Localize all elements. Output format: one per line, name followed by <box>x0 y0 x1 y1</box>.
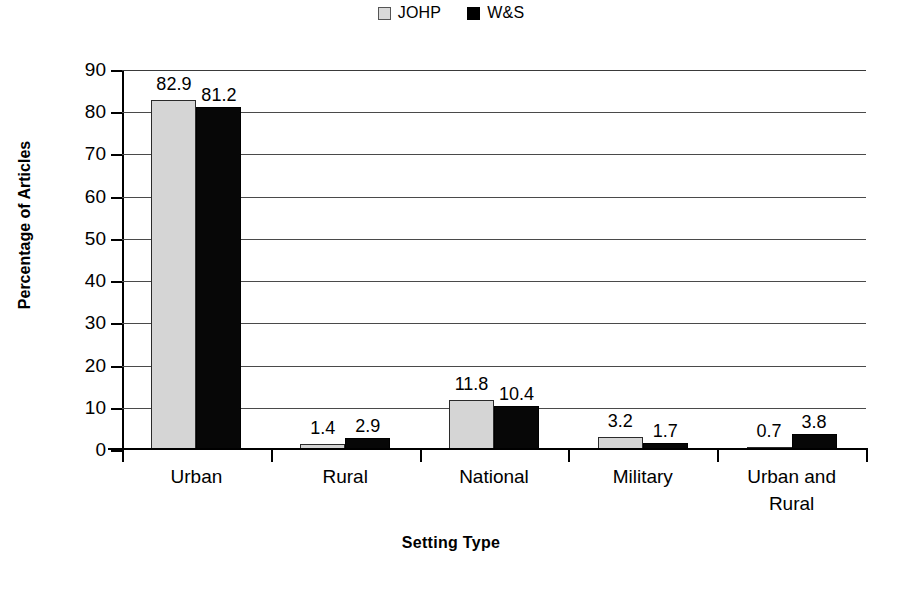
y-tick-label-30: 30 <box>50 312 106 334</box>
bar-value-label: 81.2 <box>201 86 236 104</box>
y-tick-label-60: 60 <box>50 186 106 208</box>
bar-value-label: 10.4 <box>499 385 534 403</box>
legend-swatch-johp-icon <box>378 7 391 20</box>
bar-value-label: 0.7 <box>757 422 782 440</box>
y-tick-label-40: 40 <box>50 270 106 292</box>
y-tick-60 <box>111 197 122 199</box>
y-tick-0 <box>111 450 122 452</box>
x-tick-3 <box>568 450 570 462</box>
bar-group: 0.73.8 <box>717 70 866 450</box>
y-tick-10 <box>111 408 122 410</box>
y-tick-label-90: 90 <box>50 59 106 81</box>
legend-label-ws: W&S <box>487 4 524 22</box>
bar-group: 1.42.9 <box>271 70 420 450</box>
bar-group: 82.981.2 <box>122 70 271 450</box>
y-tick-label-80: 80 <box>50 101 106 123</box>
y-tick-label-20: 20 <box>50 355 106 377</box>
plot-area: 0102030405060708090 82.981.21.42.911.810… <box>122 70 866 450</box>
y-tick-80 <box>111 112 122 114</box>
legend-item-johp: JOHP <box>378 4 441 22</box>
y-tick-20 <box>111 366 122 368</box>
y-tick-label-70: 70 <box>50 143 106 165</box>
bar-value-label: 2.9 <box>355 417 380 435</box>
x-tick-2 <box>420 450 422 462</box>
y-tick-40 <box>111 281 122 283</box>
bar-ws-0[interactable]: 81.2 <box>196 107 241 450</box>
legend-swatch-ws-icon <box>467 7 480 20</box>
category-label-0: Urban <box>122 464 271 518</box>
category-label-2: National <box>420 464 569 518</box>
category-label-3: Military <box>568 464 717 518</box>
bar-groups: 82.981.21.42.911.810.43.21.70.73.8 <box>122 70 866 450</box>
bar-johp-2[interactable]: 11.8 <box>449 400 494 450</box>
bar-chart: JOHP W&S Percentage of Articles 01020304… <box>0 0 902 591</box>
category-label-1: Rural <box>271 464 420 518</box>
bar-pair: 11.810.4 <box>449 400 539 450</box>
legend-label-johp: JOHP <box>398 4 441 22</box>
legend-item-ws: W&S <box>467 4 524 22</box>
y-tick-30 <box>111 323 122 325</box>
x-axis-line <box>108 448 868 450</box>
chart-legend: JOHP W&S <box>0 4 902 22</box>
x-tick-4 <box>717 450 719 462</box>
bar-value-label: 3.2 <box>608 412 633 430</box>
category-label-4: Urban andRural <box>717 464 866 518</box>
bar-value-label: 82.9 <box>156 75 191 93</box>
x-axis-title: Setting Type <box>0 534 902 552</box>
x-tick-1 <box>271 450 273 462</box>
y-tick-50 <box>111 239 122 241</box>
x-tick-0 <box>122 450 124 462</box>
bar-group: 3.21.7 <box>568 70 717 450</box>
bar-group: 11.810.4 <box>420 70 569 450</box>
y-axis-title: Percentage of Articles <box>10 0 40 450</box>
y-tick-label-50: 50 <box>50 228 106 250</box>
y-tick-70 <box>111 154 122 156</box>
bar-value-label: 11.8 <box>455 375 489 393</box>
bar-ws-2[interactable]: 10.4 <box>494 406 539 450</box>
x-tick-5 <box>866 450 868 462</box>
x-axis-category-labels: UrbanRuralNationalMilitaryUrban andRural <box>122 464 866 518</box>
y-axis-title-text: Percentage of Articles <box>16 141 34 309</box>
bar-value-label: 3.8 <box>802 413 827 431</box>
bar-johp-0[interactable]: 82.9 <box>151 100 196 450</box>
bar-pair: 82.981.2 <box>151 100 241 450</box>
bar-value-label: 1.7 <box>653 422 678 440</box>
y-tick-90 <box>111 70 122 72</box>
bar-value-label: 1.4 <box>310 419 335 437</box>
y-tick-label-10: 10 <box>50 397 106 419</box>
y-tick-label-0: 0 <box>50 439 106 461</box>
